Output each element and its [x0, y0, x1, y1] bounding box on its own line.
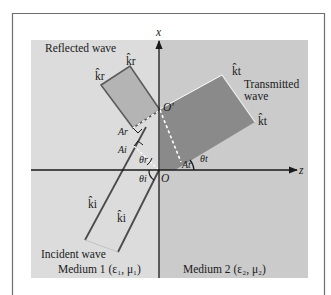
svg-text:k̂i: k̂i — [117, 210, 126, 224]
reflected-wave-label: Reflected wave — [45, 42, 116, 54]
theta-i-label: θi — [139, 173, 147, 184]
k-t-vector-bottom: k̂t — [258, 113, 268, 127]
theta-r-label: θr — [139, 154, 148, 165]
k-r-vector-left: k̂r — [95, 68, 105, 82]
x-axis-label: x — [155, 26, 162, 38]
k-r-vector-right: k̂r — [126, 53, 136, 67]
point-At-label: At — [181, 159, 191, 170]
figure: x z O O′ Reflected wave Transmitted wave… — [0, 0, 331, 295]
transmitted-wave-label-1: Transmitted — [244, 78, 299, 90]
medium2-label: Medium 2 (ε₂, μ₂) — [183, 263, 266, 276]
incident-wave-label: Incident wave — [41, 248, 106, 260]
svg-text:k̂t: k̂t — [258, 113, 268, 127]
transmitted-wave-label-2: wave — [244, 90, 268, 102]
k-i-vector-left: k̂i — [88, 196, 97, 210]
svg-text:k̂t: k̂t — [232, 63, 242, 77]
svg-text:k̂i: k̂i — [88, 196, 97, 210]
origin-label: O — [161, 172, 170, 184]
svg-text:k̂r: k̂r — [126, 53, 136, 67]
point-Ai-label: Ai — [117, 144, 127, 155]
diagram-canvas: x z O O′ Reflected wave Transmitted wave… — [0, 0, 331, 295]
origin-prime-label: O′ — [163, 101, 174, 113]
theta-t-label: θt — [200, 153, 208, 164]
z-axis-label: z — [298, 164, 304, 176]
medium1-label: Medium 1 (ε₁, μ₁) — [58, 263, 141, 276]
k-i-vector-right: k̂i — [117, 210, 126, 224]
point-Ar-label: Ar — [117, 126, 128, 137]
svg-text:k̂r: k̂r — [95, 68, 105, 82]
k-t-vector-top: k̂t — [232, 63, 242, 77]
